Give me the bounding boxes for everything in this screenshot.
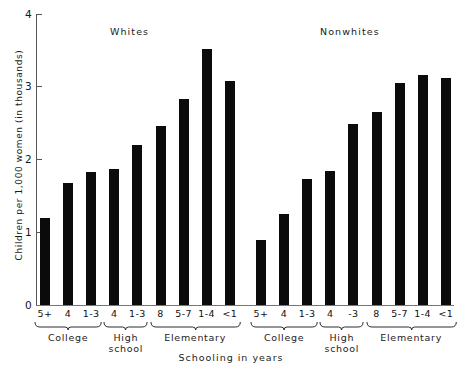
x-tick-label: 8	[373, 308, 379, 319]
group-brace-label: High school	[109, 332, 144, 354]
panel-title-nonwhites: Nonwhites	[320, 26, 380, 37]
bar	[395, 83, 405, 305]
bar-chart: Children per 1,000 women (in thousands) …	[0, 0, 462, 372]
bar	[132, 145, 142, 305]
bar	[109, 169, 119, 305]
y-tick-label-2: 2	[20, 153, 32, 165]
x-tick-label: 1-4	[414, 308, 431, 319]
bar	[40, 218, 50, 305]
bar	[325, 171, 335, 305]
x-tick-label: <1	[222, 308, 237, 319]
group-brace-label: College	[264, 332, 304, 343]
x-tick-label: 1-3	[129, 308, 146, 319]
group-brace-label: College	[48, 332, 88, 343]
group-brace	[319, 322, 364, 330]
group-brace	[34, 322, 102, 330]
group-brace-label: Elementary	[380, 332, 442, 343]
x-axis-line	[36, 305, 454, 306]
y-tick-label-3: 3	[20, 80, 32, 92]
x-tick-label: 8	[157, 308, 163, 319]
x-tick-label: 1-3	[299, 308, 316, 319]
x-tick-label: 4	[327, 308, 333, 319]
bar	[418, 75, 428, 305]
bar	[179, 99, 189, 305]
bar	[225, 81, 235, 305]
bar	[372, 112, 382, 305]
group-brace	[150, 322, 241, 330]
bar	[156, 126, 166, 305]
bar	[202, 49, 212, 305]
x-tick-label: 1-4	[198, 308, 215, 319]
y-tick-2	[36, 159, 42, 160]
x-tick-label: 1-3	[83, 308, 100, 319]
bar	[302, 179, 312, 305]
x-axis-title: Schooling in years	[0, 352, 462, 363]
x-tick-label: 5-7	[175, 308, 192, 319]
bar	[279, 214, 289, 305]
bar	[348, 124, 358, 306]
group-brace	[250, 322, 318, 330]
group-brace	[103, 322, 148, 330]
y-tick-label-1: 1	[20, 226, 32, 238]
y-tick-label-0: 0	[20, 299, 32, 311]
bar	[86, 172, 96, 305]
group-brace-label: Elementary	[164, 332, 226, 343]
group-brace-label: High school	[325, 332, 360, 354]
bar	[441, 78, 451, 305]
y-tick-3	[36, 86, 42, 87]
y-tick-label-4: 4	[20, 8, 32, 20]
group-brace	[366, 322, 457, 330]
x-tick-label: 5+	[254, 308, 269, 319]
x-tick-label: -3	[348, 308, 358, 319]
panel-title-whites: Whites	[110, 26, 149, 37]
x-tick-label: <1	[438, 308, 453, 319]
x-tick-label: 4	[111, 308, 117, 319]
x-tick-label: 4	[65, 308, 71, 319]
x-tick-label: 5+	[38, 308, 53, 319]
y-tick-4	[36, 14, 42, 15]
bar	[63, 183, 73, 305]
x-tick-label: 4	[281, 308, 287, 319]
bar	[256, 240, 266, 305]
x-tick-label: 5-7	[391, 308, 408, 319]
